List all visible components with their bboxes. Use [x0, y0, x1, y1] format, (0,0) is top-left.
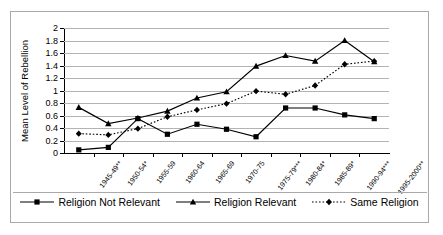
data-point-diamond [76, 130, 82, 136]
legend-item-1[interactable]: Religion Relevant [176, 197, 296, 208]
x-tick-label: 1955-59 [154, 159, 177, 185]
y-axis-title: Mean Level of Rebellion [19, 28, 32, 154]
x-tick-label: 1950-54* [126, 159, 151, 188]
y-tick-label: 0.8 [45, 98, 58, 108]
data-point-diamond [283, 91, 289, 97]
y-tick-label: 0.2 [45, 136, 58, 146]
x-tick-label: 1970-75 [243, 159, 266, 185]
x-tick-mark [241, 153, 242, 157]
data-point-square [224, 127, 229, 132]
x-tick-label: 1985-89* [332, 159, 357, 188]
x-tick-label-wrap: 1980-84* [303, 159, 328, 188]
x-tick-label-wrap: 1995-2000** [396, 159, 428, 196]
data-point-square [372, 116, 377, 121]
data-point-square [165, 132, 170, 137]
y-tick-label: 1 [53, 86, 58, 96]
y-tick-label: 1.8 [45, 36, 58, 46]
x-tick-label: 1990-94*** [364, 159, 393, 192]
legend-divider [13, 192, 427, 193]
x-axis-line [64, 153, 390, 154]
x-tick-label-wrap: 1985-89* [332, 159, 357, 188]
data-point-triangle [282, 52, 288, 58]
x-tick-label-wrap: 1975-79*** [275, 159, 304, 192]
x-tick-label: 1945-49** [97, 159, 124, 190]
y-tick-mark [60, 153, 64, 154]
legend-swatch-triangle-icon [176, 197, 210, 207]
x-tick-label: 1975-79*** [275, 159, 304, 192]
data-point-square [194, 122, 199, 127]
x-tick-label-wrap: 1970-75 [243, 159, 266, 185]
x-tick-mark [212, 153, 213, 157]
legend-swatch-diamond-icon [312, 197, 346, 207]
x-tick-mark [271, 153, 272, 157]
x-tick-mark [153, 153, 154, 157]
data-point-diamond [194, 107, 200, 113]
data-point-diamond [224, 100, 230, 106]
x-tick-label: 1980-84* [303, 159, 328, 188]
data-point-square [283, 105, 288, 110]
y-tick-label: 1.6 [45, 48, 58, 58]
y-tick-label: 1.2 [45, 73, 58, 83]
x-tick-mark [123, 153, 124, 157]
x-tick-mark [330, 153, 331, 157]
x-tick-label: 1965-69 [213, 159, 236, 185]
legend-label: Religion Not Relevant [58, 197, 160, 208]
y-tick-label: 0.6 [45, 111, 58, 121]
x-tick-mark [94, 153, 95, 157]
legend-label: Religion Relevant [214, 197, 296, 208]
y-tick-label: 0 [53, 148, 58, 158]
legend-swatch-square-icon [20, 197, 54, 207]
x-tick-label-wrap: 1945-49** [97, 159, 124, 190]
data-point-square [106, 145, 111, 150]
x-tick-mark [182, 153, 183, 157]
x-tick-label-wrap: 1965-69 [213, 159, 236, 185]
data-point-square [342, 112, 347, 117]
y-tick-label: 1.4 [45, 61, 58, 71]
y-tick-label: 2 [53, 23, 58, 33]
x-tick-label-wrap: 1960-64 [184, 159, 207, 185]
data-point-triangle [76, 104, 82, 110]
data-point-diamond [135, 125, 141, 131]
series-line-2 [79, 61, 374, 135]
x-tick-mark [300, 153, 301, 157]
x-tick-mark [359, 153, 360, 157]
x-tick-label: 1995-2000** [396, 159, 428, 196]
data-point-diamond [326, 199, 332, 205]
legend-item-2[interactable]: Same Religion [312, 197, 418, 208]
data-point-diamond [164, 114, 170, 120]
x-tick-label: 1960-64 [184, 159, 207, 185]
x-tick-label-wrap: 1955-59 [154, 159, 177, 185]
data-point-triangle [341, 37, 347, 43]
x-tick-label-wrap: 1950-54* [126, 159, 151, 188]
legend-item-0[interactable]: Religion Not Relevant [20, 197, 160, 208]
data-point-triangle [164, 108, 170, 114]
data-point-square [76, 147, 81, 152]
data-point-diamond [253, 88, 259, 94]
data-point-square [253, 134, 258, 139]
chart-container: Mean Level of Rebellion 00.20.40.60.811.… [10, 11, 429, 223]
legend-label: Same Religion [350, 197, 418, 208]
data-point-diamond [105, 132, 111, 138]
data-point-diamond [342, 61, 348, 67]
data-point-diamond [312, 82, 318, 88]
series-lines [64, 28, 389, 153]
data-point-square [35, 200, 40, 205]
x-tick-label-wrap: 1990-94*** [364, 159, 393, 192]
y-tick-label: 0.4 [45, 123, 58, 133]
plot-area: 00.20.40.60.811.21.41.61.82 [64, 28, 389, 153]
chart-legend: Religion Not RelevantReligion RelevantSa… [11, 197, 428, 208]
data-point-square [313, 105, 318, 110]
